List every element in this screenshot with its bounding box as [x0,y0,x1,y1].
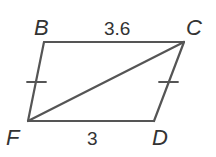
length-label-fd: 3 [87,128,98,149]
vertex-label-c: C [186,15,202,40]
geometry-diagram: B C F D 3.6 3 [0,0,216,157]
length-label-bc: 3.6 [104,18,130,39]
vertex-label-d: D [152,125,168,150]
vertex-label-f: F [6,125,21,150]
vertex-label-b: B [34,15,49,40]
